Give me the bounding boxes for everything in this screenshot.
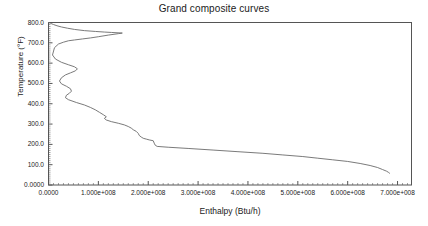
- data-series-line: [49, 23, 390, 174]
- y-tick-label: 400.0: [0, 100, 44, 107]
- plot-frame: [49, 23, 412, 186]
- chart-figure: Grand composite curves Temperature (°F) …: [0, 0, 428, 226]
- y-tick-label: 800.0: [0, 19, 44, 26]
- y-tick-label: 600.0: [0, 59, 44, 66]
- y-tick-label: 100.0: [0, 161, 44, 168]
- y-tick-label: 300.0: [0, 120, 44, 127]
- minor-tick-marks: [49, 25, 408, 185]
- y-tick-label: 0.0000: [0, 181, 44, 188]
- major-tick-marks: [49, 23, 398, 186]
- y-tick-label: 500.0: [0, 79, 44, 86]
- x-tick-label: 7.000e+008: [358, 189, 428, 196]
- y-tick-label: 200.0: [0, 140, 44, 147]
- y-tick-label: 700.0: [0, 39, 44, 46]
